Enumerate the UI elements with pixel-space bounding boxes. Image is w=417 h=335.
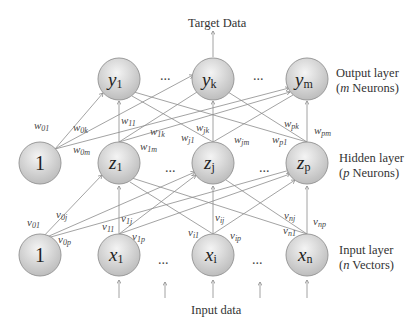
svg-text:vn1: vn1 [283, 224, 296, 238]
hidden-output-weight-labels: w01 w0k w0m w11 w1k w1m wjk wj1 wjm wpk … [34, 114, 331, 157]
output-layer-nodes: y1 yk ym [98, 58, 328, 100]
svg-text:vi1: vi1 [188, 226, 199, 240]
ellipsis: ... [158, 252, 169, 267]
ellipsis: ... [165, 160, 176, 175]
node-ym: ym [286, 58, 328, 100]
svg-text:vnp: vnp [313, 215, 326, 229]
svg-text:wpk: wpk [284, 117, 299, 131]
svg-text:1: 1 [35, 152, 45, 174]
ellipsis: ... [160, 68, 171, 83]
svg-text:w01: w01 [34, 119, 49, 133]
svg-text:v0j: v0j [56, 208, 68, 222]
output-layer-desc: (m Neurons) [336, 81, 399, 96]
hidden-bias-node: 1 [19, 142, 61, 184]
svg-text:vnj: vnj [284, 209, 296, 223]
svg-text:wj1: wj1 [181, 131, 195, 145]
svg-text:w11: w11 [121, 114, 136, 128]
node-xi: xi [192, 234, 234, 276]
node-yk: yk [192, 58, 234, 100]
hidden-to-output-edges [55, 75, 307, 163]
input-to-hidden-edges [40, 170, 307, 240]
ellipsis: ... [253, 68, 264, 83]
svg-text:v11: v11 [102, 220, 114, 234]
target-data-label: Target Data [188, 16, 246, 31]
hidden-layer-label: Hidden layer (p Neurons) [339, 151, 404, 181]
output-layer-label: Output layer (m Neurons) [336, 66, 399, 96]
input-data-label: Input data [191, 303, 241, 318]
node-z1: z1 [98, 142, 140, 184]
svg-text:vip: vip [230, 229, 241, 243]
svg-text:w1k: w1k [150, 125, 165, 139]
svg-text:vij: vij [215, 211, 225, 225]
input-layer-name: Input layer [339, 243, 394, 258]
svg-text:w0k: w0k [73, 121, 88, 135]
node-xn: xn [286, 234, 328, 276]
svg-text:wp1: wp1 [272, 133, 287, 147]
svg-text:v1p: v1p [132, 230, 145, 244]
svg-text:w1m: w1m [140, 140, 157, 154]
input-layer-desc: (n Vectors) [339, 258, 394, 273]
svg-text:wjk: wjk [196, 121, 210, 135]
node-zj: zj [192, 142, 234, 184]
svg-text:v0p: v0p [58, 233, 71, 247]
svg-text:w0m: w0m [73, 143, 90, 157]
output-layer-name: Output layer [336, 66, 399, 81]
input-layer-label: Input layer (n Vectors) [339, 243, 394, 273]
input-bias-node: 1 [19, 234, 61, 276]
svg-text:1: 1 [35, 244, 45, 266]
ellipsis: ... [259, 160, 270, 175]
input-arrows [119, 280, 307, 298]
hidden-layer-name: Hidden layer [339, 151, 404, 166]
node-zp: zp [286, 142, 328, 184]
svg-text:v01: v01 [27, 216, 40, 230]
svg-text:wpm: wpm [314, 124, 331, 138]
svg-text:wjm: wjm [234, 133, 250, 147]
node-y1: y1 [98, 58, 140, 100]
ellipsis: ... [252, 252, 263, 267]
hidden-layer-desc: (p Neurons) [339, 166, 404, 181]
